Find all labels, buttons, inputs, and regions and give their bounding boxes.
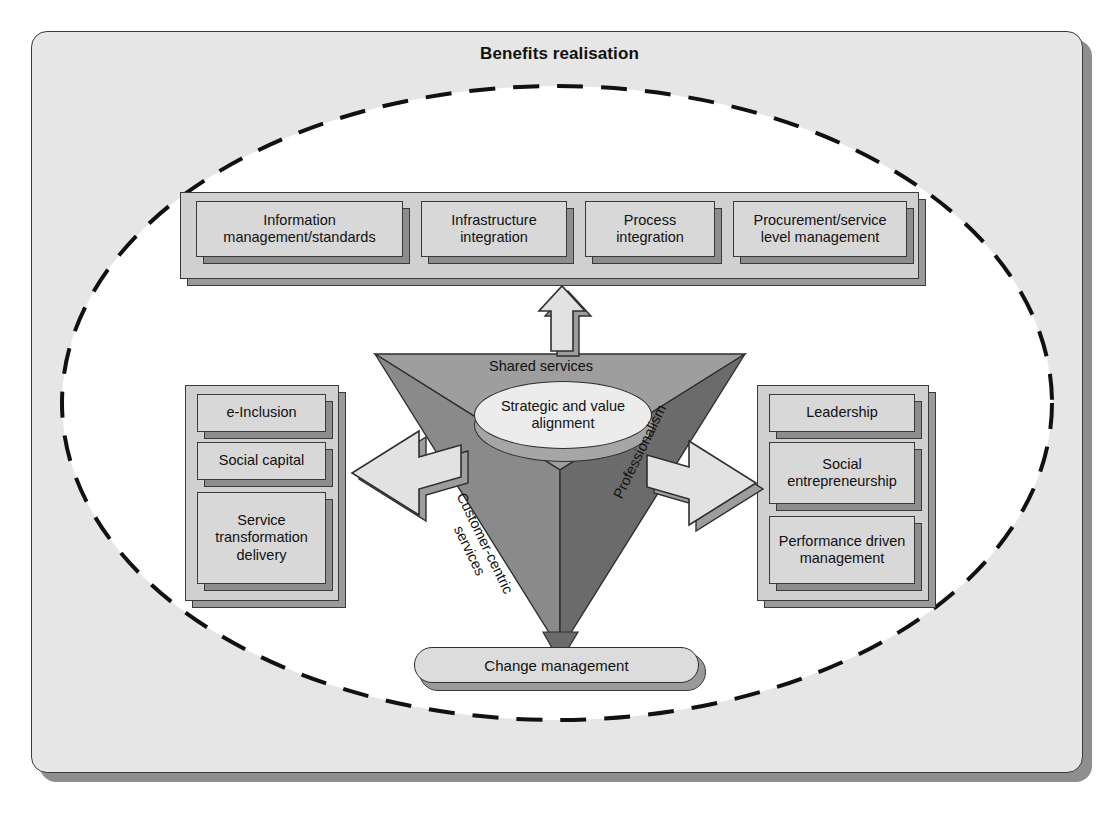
triangle-label-shared-services: Shared services: [489, 358, 593, 374]
diagram-canvas: Benefits realisation Information managem…: [0, 0, 1119, 827]
bottom-pill-change-management[interactable]: Change management: [414, 647, 704, 689]
pill-face: Change management: [414, 647, 699, 683]
centre-oval-strategic-and-value-alignment[interactable]: Strategic and value alignment: [474, 381, 652, 449]
pill-label: Change management: [484, 657, 628, 674]
centre-oval-label-line1: Strategic and value: [501, 398, 625, 414]
centre-oval-label-line2: alignment: [532, 415, 595, 431]
